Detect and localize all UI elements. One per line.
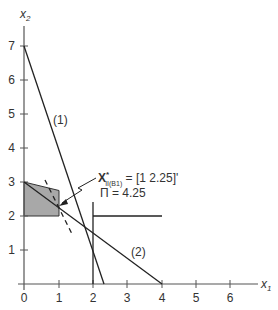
svg-text:4: 4 bbox=[8, 141, 15, 155]
x-axis-label: x1 bbox=[260, 277, 271, 293]
x-tick-labels: 0 1 2 3 4 5 6 bbox=[21, 291, 234, 305]
svg-text:1: 1 bbox=[8, 243, 15, 257]
lp-chart: 0 1 2 3 4 5 6 1 2 3 4 5 6 7 x2 x1 (1) (2… bbox=[0, 0, 278, 310]
constraint-line-1 bbox=[24, 46, 104, 284]
objective-value-label: Π = 4.25 bbox=[100, 186, 146, 200]
svg-text:5: 5 bbox=[8, 107, 15, 121]
svg-text:4: 4 bbox=[159, 291, 166, 305]
svg-text:2: 2 bbox=[8, 209, 15, 223]
svg-text:1: 1 bbox=[56, 291, 63, 305]
y-axis-label: x2 bbox=[19, 7, 31, 23]
annotation-arrow bbox=[62, 178, 96, 203]
svg-text:6: 6 bbox=[8, 73, 15, 87]
feasible-region bbox=[24, 182, 59, 216]
svg-text:6: 6 bbox=[227, 291, 234, 305]
y-tick-labels: 1 2 3 4 5 6 7 bbox=[8, 39, 15, 257]
svg-text:7: 7 bbox=[8, 39, 15, 53]
svg-text:5: 5 bbox=[193, 291, 200, 305]
line-1-label: (1) bbox=[53, 113, 68, 127]
svg-text:2: 2 bbox=[90, 291, 97, 305]
svg-text:3: 3 bbox=[124, 291, 131, 305]
line-2-label: (2) bbox=[131, 245, 146, 259]
svg-text:0: 0 bbox=[21, 291, 28, 305]
svg-text:3: 3 bbox=[8, 175, 15, 189]
